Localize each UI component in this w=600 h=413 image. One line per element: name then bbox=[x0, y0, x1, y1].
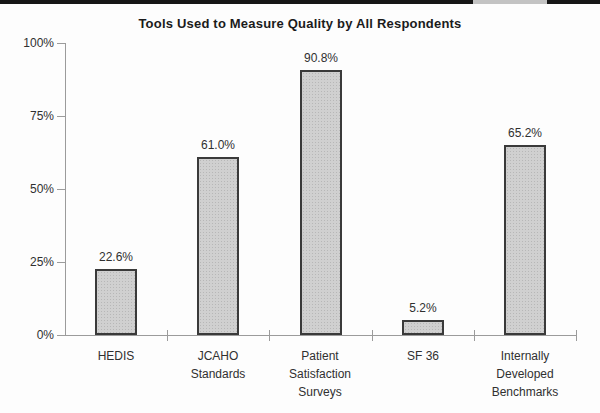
x-axis-line bbox=[65, 335, 577, 336]
x-category-label-line: HEDIS bbox=[65, 347, 167, 365]
x-category-label-line: Surveys bbox=[269, 383, 371, 401]
x-category-label-line: Benchmarks bbox=[474, 383, 576, 401]
x-category-label: SF 36 bbox=[372, 347, 474, 365]
x-category-label-line: Developed bbox=[474, 365, 576, 383]
y-tick-mark bbox=[57, 335, 65, 336]
chart-page: Tools Used to Measure Quality by All Res… bbox=[0, 0, 600, 413]
y-tick-mark bbox=[57, 43, 65, 44]
bar-internally-developed-benchmarks bbox=[504, 145, 546, 335]
plot-area: 0%25%50%75%100%22.6%HEDIS61.0%JCAHOStand… bbox=[0, 0, 600, 413]
x-tick-mark bbox=[167, 330, 168, 341]
x-category-label: InternallyDevelopedBenchmarks bbox=[474, 347, 576, 401]
bar-value-label: 65.2% bbox=[480, 126, 570, 141]
y-axis-label: 100% bbox=[0, 35, 54, 51]
x-category-label-line: Internally bbox=[474, 347, 576, 365]
x-category-label: JCAHOStandards bbox=[167, 347, 269, 383]
bar-value-label: 61.0% bbox=[173, 138, 263, 153]
x-category-label-line: Standards bbox=[167, 365, 269, 383]
y-axis-line bbox=[65, 43, 66, 335]
y-tick-mark bbox=[57, 262, 65, 263]
x-category-label-line: Patient bbox=[269, 347, 371, 365]
x-category-label: HEDIS bbox=[65, 347, 167, 365]
bar-value-label: 5.2% bbox=[378, 301, 468, 316]
bar-jcaho-standards bbox=[197, 157, 239, 335]
y-axis-label: 25% bbox=[0, 254, 54, 270]
x-tick-mark bbox=[372, 330, 373, 341]
y-axis-label: 75% bbox=[0, 108, 54, 124]
x-category-label: PatientSatisfactionSurveys bbox=[269, 347, 371, 401]
bar-value-label: 90.8% bbox=[276, 51, 366, 66]
x-category-label-line: JCAHO bbox=[167, 347, 269, 365]
bar-patient-satisfaction-surveys bbox=[300, 70, 342, 335]
x-category-label-line: Satisfaction bbox=[269, 365, 371, 383]
y-tick-mark bbox=[57, 189, 65, 190]
y-axis-label: 0% bbox=[0, 327, 54, 343]
x-tick-mark bbox=[269, 330, 270, 341]
x-tick-mark bbox=[474, 330, 475, 341]
bar-sf-36 bbox=[402, 320, 444, 335]
x-category-label-line: SF 36 bbox=[372, 347, 474, 365]
y-tick-mark bbox=[57, 116, 65, 117]
y-axis-label: 50% bbox=[0, 181, 54, 197]
x-tick-mark bbox=[576, 330, 577, 341]
bar-hedis bbox=[95, 269, 137, 335]
bar-value-label: 22.6% bbox=[71, 250, 161, 265]
